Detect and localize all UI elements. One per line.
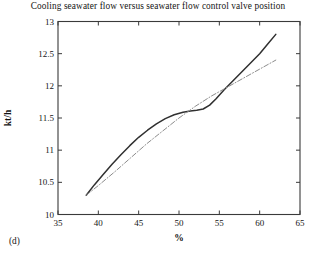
y-axis-label: kt/h xyxy=(3,110,13,126)
subfigure-label: (d) xyxy=(9,236,20,246)
x-tick-label: 45 xyxy=(134,218,143,228)
x-tick-label: 65 xyxy=(296,218,305,228)
y-tick-label: 12 xyxy=(20,81,54,91)
figure-panel: Cooling seawater flow versus seawater fl… xyxy=(0,0,316,255)
y-tick-label: 10.5 xyxy=(20,177,54,187)
x-tick-label: 55 xyxy=(215,218,224,228)
x-tick-label: 50 xyxy=(175,218,184,228)
x-axis-label: % xyxy=(174,233,184,243)
y-tick-label: 10 xyxy=(20,210,54,220)
y-tick-label: 11.5 xyxy=(20,113,54,123)
y-tick-label: 11 xyxy=(20,145,54,155)
x-tick-label: 40 xyxy=(94,218,103,228)
x-tick-label: 60 xyxy=(255,218,264,228)
y-tick-label: 12.5 xyxy=(20,49,54,59)
x-tick-label: 35 xyxy=(54,218,63,228)
y-tick-label: 13 xyxy=(20,17,54,27)
